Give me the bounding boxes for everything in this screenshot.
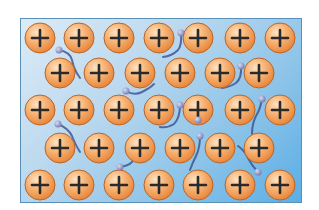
positive-ion <box>225 95 255 125</box>
electron <box>56 47 63 54</box>
positive-ion <box>125 133 155 163</box>
positive-ion <box>104 95 134 125</box>
positive-ion <box>84 58 114 88</box>
electron <box>123 88 130 95</box>
positive-ion <box>165 58 195 88</box>
metal-lattice-diagram <box>0 0 319 210</box>
positive-ion <box>244 58 274 88</box>
positive-ion <box>25 23 55 53</box>
electron <box>259 96 266 103</box>
positive-ion <box>104 170 134 200</box>
positive-ion <box>25 95 55 125</box>
positive-ion <box>45 133 75 163</box>
electron <box>177 102 184 109</box>
positive-ion <box>64 23 94 53</box>
positive-ion <box>144 170 174 200</box>
electron <box>197 133 204 140</box>
positive-ion <box>144 23 174 53</box>
positive-ion <box>205 58 235 88</box>
electron <box>255 169 262 176</box>
positive-ion <box>25 170 55 200</box>
electron <box>195 117 202 124</box>
positive-ion <box>244 133 274 163</box>
positive-ion <box>64 170 94 200</box>
positive-ion <box>64 95 94 125</box>
positive-ion <box>125 58 155 88</box>
positive-ion <box>144 95 174 125</box>
positive-ion <box>225 170 255 200</box>
positive-ion <box>183 170 213 200</box>
positive-ion <box>165 133 195 163</box>
positive-ion <box>225 23 255 53</box>
electron <box>178 30 185 37</box>
positive-ion <box>265 95 295 125</box>
positive-ion <box>265 23 295 53</box>
positive-ion <box>84 133 114 163</box>
electron <box>117 164 124 171</box>
positive-ion <box>104 23 134 53</box>
positive-ion <box>183 23 213 53</box>
electron <box>238 63 245 70</box>
positive-ion <box>265 170 295 200</box>
positive-ion <box>205 133 235 163</box>
positive-ion <box>45 58 75 88</box>
electron <box>55 121 62 128</box>
positive-ions <box>25 23 295 200</box>
